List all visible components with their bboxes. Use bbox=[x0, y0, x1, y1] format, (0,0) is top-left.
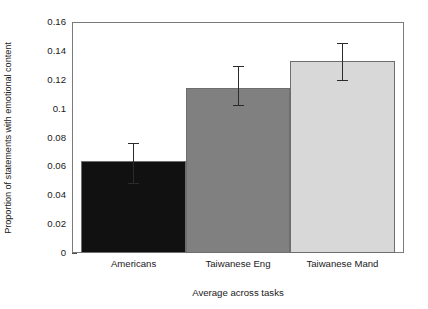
x-tick-label-taiwanese-mand: Taiwanese Mand bbox=[306, 258, 378, 270]
error-bar-taiwanese-mand bbox=[337, 43, 348, 81]
y-tick-label-0: 0 bbox=[32, 248, 66, 258]
y-axis-tick-labels: 0.16 0.14 0.12 0.1 0.08 0.06 0.04 0.02 0 bbox=[30, 0, 66, 309]
error-bar-americans bbox=[128, 143, 139, 185]
x-axis-title: Average across tasks bbox=[72, 287, 404, 299]
x-tick-label-americans: Americans bbox=[111, 258, 156, 270]
bars-layer bbox=[72, 22, 404, 253]
error-bar-stem bbox=[342, 43, 343, 81]
y-axis-title: Proportion of statements with emotional … bbox=[1, 23, 15, 254]
y-tick-mark bbox=[72, 253, 77, 254]
y-tick-label-0.02: 0.02 bbox=[32, 219, 66, 229]
error-bar-stem bbox=[133, 143, 134, 185]
error-bar-cap-bottom bbox=[337, 80, 348, 81]
bar-taiwanese-mand bbox=[290, 61, 394, 253]
x-tick-label-taiwanese-eng: Taiwanese Eng bbox=[205, 258, 270, 270]
error-bar-taiwanese-eng bbox=[233, 66, 244, 106]
y-tick-label-0.12: 0.12 bbox=[32, 75, 66, 85]
error-bar-cap-bottom bbox=[233, 105, 244, 106]
error-bar-stem bbox=[238, 66, 239, 106]
y-tick-label-0.06: 0.06 bbox=[32, 161, 66, 171]
error-bar-cap-bottom bbox=[128, 183, 139, 184]
y-tick-label-0.08: 0.08 bbox=[32, 133, 66, 143]
bar-taiwanese-eng bbox=[186, 88, 290, 253]
y-tick-label-0.04: 0.04 bbox=[32, 190, 66, 200]
x-axis-tick-labels: Americans Taiwanese Eng Taiwanese Mand bbox=[72, 258, 404, 272]
y-tick-label-0.1: 0.1 bbox=[32, 104, 66, 114]
bar-chart-figure: Proportion of statements with emotional … bbox=[0, 0, 428, 309]
y-tick-label-0.16: 0.16 bbox=[32, 17, 66, 27]
y-tick-label-0.14: 0.14 bbox=[32, 46, 66, 56]
